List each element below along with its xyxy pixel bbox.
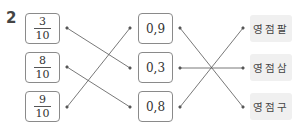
dot [129,106,131,108]
dot [129,67,131,69]
dot [242,27,244,29]
dot [66,106,68,108]
dot [242,67,244,69]
dot [66,27,68,29]
dot [179,106,181,108]
dot [129,27,131,29]
line-9-10-to-0-9 [67,28,130,107]
line-8-10-to-0-8 [67,67,130,107]
connection-lines [0,0,304,128]
dot [66,66,68,68]
dot [242,106,244,108]
dot [179,67,181,69]
line-3-10-to-0-3 [67,28,130,68]
dot [179,27,181,29]
